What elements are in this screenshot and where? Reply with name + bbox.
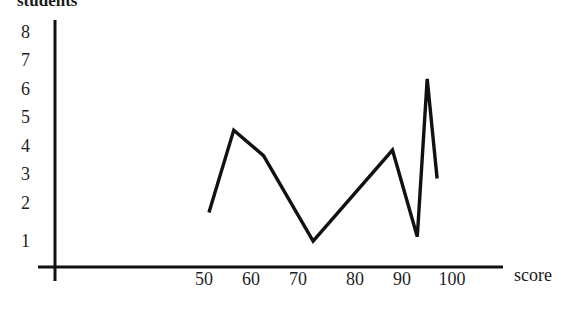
- plot-area: [0, 0, 581, 311]
- data-line-series: [209, 79, 437, 241]
- line-chart-figure: students score 8 7 6 5 4 3 2 1 50 60 70 …: [0, 0, 581, 311]
